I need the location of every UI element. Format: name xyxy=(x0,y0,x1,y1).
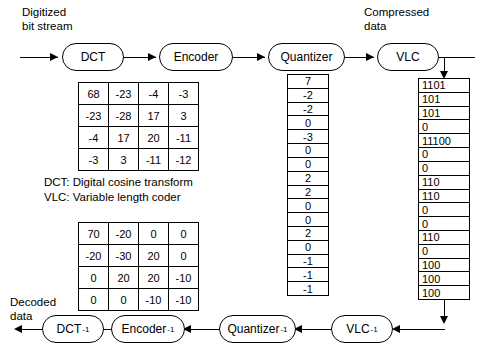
table-row: -20 -30 20 0 xyxy=(79,245,199,267)
arrow-encoder-quantizer-head xyxy=(257,53,265,61)
table-row: -4 17 20 -11 xyxy=(79,127,199,149)
list-item: 2 xyxy=(288,172,328,186)
legend-vlc: VLC: Variable length coder xyxy=(44,190,181,204)
matrix-cell: -23 xyxy=(109,83,139,105)
matrix-cell: -11 xyxy=(139,149,169,171)
decoded-output-arrow-head xyxy=(14,325,22,333)
matrix-cell: 0 xyxy=(109,289,139,311)
legend-dct: DCT: Digital cosine transform xyxy=(44,175,193,189)
matrix-cell: 0 xyxy=(79,267,109,289)
compressed-to-decoder-arrow-head xyxy=(440,316,448,324)
list-item: 0 xyxy=(288,144,328,158)
matrix-cell: -20 xyxy=(79,245,109,267)
process-quantizer-inverse-superscript: -1 xyxy=(280,325,287,334)
process-quantizer[interactable]: Quantizer xyxy=(268,43,345,71)
matrix-cell: -30 xyxy=(109,245,139,267)
process-encoder[interactable]: Encoder xyxy=(159,43,233,71)
process-dct-inverse-label: DCT xyxy=(57,322,82,336)
matrix-cell: -12 xyxy=(169,149,199,171)
process-dct[interactable]: DCT xyxy=(62,43,124,71)
list-item: -2 xyxy=(288,103,328,117)
list-item: 101 xyxy=(419,107,469,121)
list-item: 7 xyxy=(288,75,328,89)
table-row: 0 0 -10 -10 xyxy=(79,289,199,311)
matrix-cell: -3 xyxy=(79,149,109,171)
matrix-cell: -4 xyxy=(139,83,169,105)
list-item: 100 xyxy=(419,272,469,286)
list-item: 11100 xyxy=(419,134,469,148)
process-quantizer-inverse-label: Quantizer xyxy=(227,322,279,336)
matrix-cell: -10 xyxy=(139,289,169,311)
matrix-cell: -3 xyxy=(169,83,199,105)
matrix-cell: -4 xyxy=(79,127,109,149)
table-row: 68 -23 -4 -3 xyxy=(79,83,199,105)
list-item: 100 xyxy=(419,286,469,299)
matrix-cell: 3 xyxy=(109,149,139,171)
list-item: 0 xyxy=(419,217,469,231)
list-item: 101 xyxy=(419,93,469,107)
table-row: 0 20 20 -10 xyxy=(79,267,199,289)
process-quantizer-label: Quantizer xyxy=(280,50,332,64)
matrix-cell: -10 xyxy=(169,267,199,289)
process-dct-inverse[interactable]: DCT-1 xyxy=(42,315,104,343)
matrix-cell: 20 xyxy=(109,267,139,289)
matrix-cell: -11 xyxy=(169,127,199,149)
list-item: -1 xyxy=(288,282,328,295)
list-item: -2 xyxy=(288,89,328,103)
process-dct-inverse-superscript: -1 xyxy=(82,325,89,334)
compressed-to-decoder-line-horizontal xyxy=(394,329,445,330)
list-item: 110 xyxy=(419,176,469,190)
input-label: Digitized bit stream xyxy=(22,6,73,33)
process-vlc-inverse[interactable]: VLC-1 xyxy=(331,315,393,343)
matrix-cell: 3 xyxy=(169,105,199,127)
process-quantizer-inverse[interactable]: Quantizer-1 xyxy=(219,315,296,343)
dct-coefficient-matrix: 68 -23 -4 -3 -23 -28 17 3 -4 17 20 -11 -… xyxy=(78,82,199,171)
reconstructed-coefficient-matrix: 70 -20 0 0 -20 -30 20 0 0 20 20 -10 0 0 … xyxy=(78,222,199,311)
matrix-cell: -10 xyxy=(169,289,199,311)
list-item: 0 xyxy=(288,116,328,130)
process-vlc[interactable]: VLC xyxy=(377,43,439,71)
vlc-codeword-column: 1101 101 101 0 11100 0 0 110 110 0 0 110… xyxy=(418,78,470,300)
process-encoder-label: Encoder xyxy=(174,50,219,64)
list-item: 0 xyxy=(288,213,328,227)
list-item: 100 xyxy=(419,259,469,273)
decoder-feed-arrow-head xyxy=(392,325,400,333)
list-item: 0 xyxy=(419,245,469,259)
process-encoder-inverse-label: Encoder xyxy=(122,322,167,336)
process-encoder-inverse[interactable]: Encoder-1 xyxy=(111,315,185,343)
list-item: 0 xyxy=(288,199,328,213)
process-vlc-inverse-superscript: -1 xyxy=(371,325,378,334)
matrix-cell: 20 xyxy=(139,245,169,267)
list-item: -1 xyxy=(288,268,328,282)
process-vlc-label: VLC xyxy=(396,50,419,64)
table-row: -3 3 -11 -12 xyxy=(79,149,199,171)
list-item: -1 xyxy=(288,255,328,269)
compressed-data-label: Compressed data xyxy=(364,6,429,33)
table-row: 70 -20 0 0 xyxy=(79,223,199,245)
matrix-cell: 0 xyxy=(139,223,169,245)
diagram-canvas: Digitized bit stream Compressed data Dec… xyxy=(0,0,487,355)
list-item: 0 xyxy=(419,203,469,217)
quantized-value-column: 7 -2 -2 0 -3 0 0 2 2 0 0 2 0 -1 -1 -1 xyxy=(287,74,329,296)
matrix-cell: 0 xyxy=(169,223,199,245)
list-item: 0 xyxy=(288,241,328,255)
table-row: -23 -28 17 3 xyxy=(79,105,199,127)
list-item: -3 xyxy=(288,130,328,144)
list-item: 0 xyxy=(419,148,469,162)
matrix-cell: -23 xyxy=(79,105,109,127)
process-encoder-inverse-superscript: -1 xyxy=(167,325,174,334)
list-item: 0 xyxy=(419,120,469,134)
matrix-cell: -20 xyxy=(109,223,139,245)
matrix-cell: 17 xyxy=(109,127,139,149)
list-item: 0 xyxy=(419,162,469,176)
matrix-cell: 0 xyxy=(169,245,199,267)
input-arrow-head xyxy=(50,53,58,61)
arrow-dct-encoder-head xyxy=(148,53,156,61)
matrix-cell: 70 xyxy=(79,223,109,245)
process-vlc-inverse-label: VLC xyxy=(346,322,369,336)
process-dct-label: DCT xyxy=(81,50,106,64)
list-item: 1101 xyxy=(419,79,469,93)
matrix-cell: 68 xyxy=(79,83,109,105)
arrow-quantizer-vlc-head xyxy=(366,53,374,61)
list-item: 2 xyxy=(288,227,328,241)
